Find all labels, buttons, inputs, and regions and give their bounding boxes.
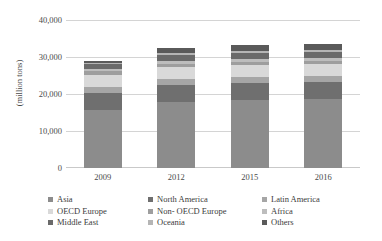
legend-label: Latin America <box>271 194 320 206</box>
legend-label: Asia <box>57 194 73 206</box>
legend-label: Africa <box>271 206 293 218</box>
bar-2016[interactable] <box>304 44 342 168</box>
bar-segment-latin-america[interactable] <box>84 87 122 93</box>
gridline <box>66 20 360 21</box>
x-axis: 2009201220152016 <box>66 172 360 186</box>
bar-segment-oecd-europe[interactable] <box>157 67 195 79</box>
y-axis: 010,00020,00030,00040,000 <box>0 20 62 168</box>
legend-swatch-icon <box>262 197 267 202</box>
bar-segment-oceania[interactable] <box>231 51 269 52</box>
y-axis-tick-label: 20,000 <box>4 90 62 99</box>
x-axis-tick-label: 2016 <box>315 172 332 182</box>
bar-2012[interactable] <box>157 48 195 168</box>
legend-swatch-icon <box>48 197 53 202</box>
x-axis-tick-label: 2012 <box>168 172 185 182</box>
legend-item-non-oecd-europe[interactable]: Non- OECD Europe <box>148 206 226 218</box>
legend-swatch-icon <box>48 209 53 214</box>
bar-segment-asia[interactable] <box>231 100 269 168</box>
plot-area <box>66 20 360 168</box>
bar-segment-non-oecd-europe[interactable] <box>231 62 269 65</box>
bar-segment-middle-east[interactable] <box>157 55 195 61</box>
legend-item-africa[interactable]: Africa <box>262 206 320 218</box>
bar-segment-middle-east[interactable] <box>84 64 122 69</box>
bar-segment-asia[interactable] <box>84 110 122 168</box>
bar-segment-others[interactable] <box>84 61 122 63</box>
bar-segment-oecd-europe[interactable] <box>304 64 342 75</box>
bar-segment-oceania[interactable] <box>84 63 122 64</box>
bar-segment-middle-east[interactable] <box>304 52 342 58</box>
bar-2015[interactable] <box>231 45 269 168</box>
chart-legend: AsiaOECD EuropeMiddle EastNorth AmericaN… <box>0 194 382 238</box>
y-axis-tick-label: 0 <box>4 164 62 173</box>
bar-segment-north-america[interactable] <box>231 83 269 100</box>
legend-swatch-icon <box>262 220 267 225</box>
y-axis-title: (million tons) <box>14 38 24 128</box>
legend-item-north-america[interactable]: North America <box>148 194 226 206</box>
bar-segment-oecd-europe[interactable] <box>84 75 122 88</box>
bar-segment-non-oecd-europe[interactable] <box>157 64 195 67</box>
legend-label: Non- OECD Europe <box>157 206 226 218</box>
bar-segment-middle-east[interactable] <box>231 53 269 59</box>
bar-segment-africa[interactable] <box>231 59 269 62</box>
bar-segment-oceania[interactable] <box>304 50 342 51</box>
legend-swatch-icon <box>148 209 153 214</box>
bar-segment-oceania[interactable] <box>157 53 195 54</box>
legend-label: Middle East <box>57 217 98 229</box>
legend-item-oecd-europe[interactable]: OECD Europe <box>48 206 107 218</box>
bar-segment-north-america[interactable] <box>84 93 122 110</box>
y-axis-tick-label: 10,000 <box>4 127 62 136</box>
legend-label: North America <box>157 194 208 206</box>
bar-segment-latin-america[interactable] <box>231 77 269 83</box>
bar-segment-others[interactable] <box>231 45 269 51</box>
legend-column: Latin AmericaAfricaOthers <box>262 194 320 229</box>
y-axis-tick-label: 40,000 <box>4 16 62 25</box>
bar-segment-north-america[interactable] <box>157 85 195 102</box>
bar-segment-north-america[interactable] <box>304 82 342 99</box>
legend-swatch-icon <box>48 220 53 225</box>
bar-segment-non-oecd-europe[interactable] <box>304 61 342 64</box>
bar-segment-asia[interactable] <box>304 99 342 168</box>
bar-segment-asia[interactable] <box>157 102 195 168</box>
legend-item-oceania[interactable]: Oceania <box>148 217 226 229</box>
legend-label: Others <box>271 217 294 229</box>
stacked-bar-chart: 010,00020,00030,00040,000 (million tons)… <box>0 0 382 241</box>
legend-label: Oceania <box>157 217 185 229</box>
y-axis-tick-label: 30,000 <box>4 53 62 62</box>
bar-segment-africa[interactable] <box>157 61 195 64</box>
bar-segment-non-oecd-europe[interactable] <box>84 71 122 74</box>
x-axis-tick-label: 2009 <box>94 172 111 182</box>
bar-segment-latin-america[interactable] <box>304 76 342 82</box>
legend-label: OECD Europe <box>57 206 107 218</box>
bar-segment-africa[interactable] <box>84 69 122 72</box>
bar-segment-oecd-europe[interactable] <box>231 65 269 76</box>
bar-segment-africa[interactable] <box>304 58 342 61</box>
legend-column: North AmericaNon- OECD EuropeOceania <box>148 194 226 229</box>
legend-swatch-icon <box>148 197 153 202</box>
legend-item-latin-america[interactable]: Latin America <box>262 194 320 206</box>
bar-segment-latin-america[interactable] <box>157 79 195 85</box>
legend-swatch-icon <box>148 220 153 225</box>
legend-swatch-icon <box>262 209 267 214</box>
legend-column: AsiaOECD EuropeMiddle East <box>48 194 107 229</box>
bar-segment-others[interactable] <box>157 48 195 54</box>
bar-segment-others[interactable] <box>304 44 342 50</box>
legend-item-middle-east[interactable]: Middle East <box>48 217 107 229</box>
legend-item-asia[interactable]: Asia <box>48 194 107 206</box>
bar-2009[interactable] <box>84 61 122 168</box>
legend-item-others[interactable]: Others <box>262 217 320 229</box>
x-axis-tick-label: 2015 <box>241 172 258 182</box>
